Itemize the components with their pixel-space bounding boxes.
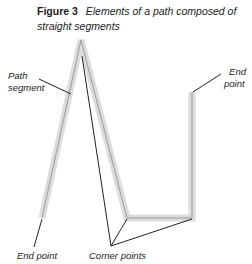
label-path-segment: Path segment bbox=[8, 70, 44, 94]
path-halo bbox=[42, 40, 192, 218]
path-diagram bbox=[0, 0, 252, 264]
label-end-point-bottom: End point bbox=[17, 250, 57, 262]
label-end-point-right: End point bbox=[226, 66, 246, 90]
leader-corner-bottom-right bbox=[111, 219, 192, 246]
leader-end-point-bottom bbox=[34, 219, 42, 247]
label-corner-points: Corner points bbox=[89, 250, 146, 262]
leader-end-point-right bbox=[193, 74, 221, 92]
